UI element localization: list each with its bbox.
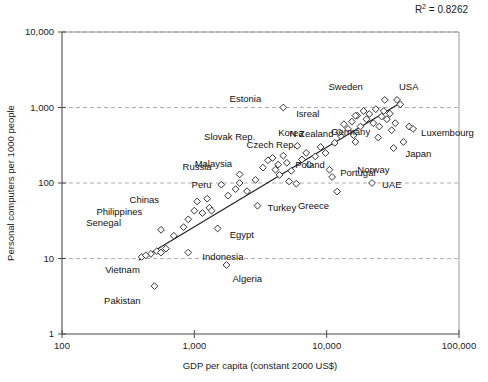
x-tick-label: 1,000 [182,340,206,351]
x-tick-label: 100 [54,340,70,351]
data-point-label: Algeria [232,273,262,284]
data-point-label: Peru [192,179,212,190]
chart-figure: EstoniaIsrealSwedenUSAKoreaN ZealandSlov… [0,0,488,382]
x-tick-label: 100,000 [442,340,476,351]
data-point-label: Isreal [296,108,319,119]
y-tick-label: 10 [43,253,54,264]
y-tick-label: 1 [49,328,54,339]
data-point-label: Luxembourg [421,127,474,138]
y-axis-title: Personal computers per 1000 people [5,105,16,261]
data-point-label: Philippines [96,206,142,217]
y-tick-label: 10,000 [25,26,54,37]
data-point-label: Estonia [230,93,262,104]
r-squared-prefix: R [415,4,422,15]
data-point-label: Czech Rep. [247,139,297,150]
data-point-label: Turkey [267,202,296,213]
data-point-label: Russia [183,161,213,172]
data-point-label: N Zealand [290,128,334,139]
r-squared-value: = 0.8262 [426,4,468,15]
data-point-label: Chinas [130,194,160,205]
data-point-label: Japan [405,148,431,159]
data-point-label: Indonesia [202,251,244,262]
data-point-label: Senegal [86,217,121,228]
data-point-label: Poland [295,159,325,170]
x-axis-title: GDP per capita (constant 2000 US$) [183,360,338,371]
data-point-label: Sweden [328,81,362,92]
data-point-label: Pakistan [104,295,140,306]
data-point-label: USA [399,81,419,92]
data-point-label: Portugal [340,167,375,178]
data-point-label: Germany [331,126,370,137]
scatter-plot-svg: EstoniaIsrealSwedenUSAKoreaN ZealandSlov… [0,0,488,382]
data-point-label: Egypt [230,229,255,240]
data-point-label: Greece [298,200,329,211]
y-tick-label: 1,000 [30,102,54,113]
data-point-label: UAE [382,179,402,190]
x-tick-label: 10,000 [312,340,341,351]
data-point-label: Vietnam [105,264,140,275]
y-tick-label: 100 [38,177,54,188]
